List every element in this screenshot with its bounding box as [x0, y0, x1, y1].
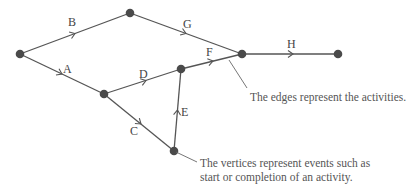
edges-callout-leader	[229, 60, 247, 88]
vertices-callout-text-line1: The vertices represent events such as	[200, 157, 371, 170]
edge-c	[104, 94, 174, 151]
vertex-4	[177, 65, 186, 74]
vertex-2	[126, 9, 135, 18]
activity-network-diagram: B A G D C E F H The edges represent the …	[0, 0, 417, 195]
vertex-3	[100, 90, 109, 99]
vertices-callout-text-line2: start or completion of an activity.	[200, 171, 353, 184]
vertices-callout-leader	[176, 152, 197, 162]
edge-label-e: E	[181, 105, 188, 119]
edge-label-f: F	[206, 45, 213, 59]
edge-label-b: B	[68, 15, 76, 29]
edge-label-a: A	[63, 62, 72, 76]
edge-label-h: H	[287, 37, 296, 51]
vertex-6	[238, 50, 247, 59]
vertex-5	[170, 147, 179, 156]
edge-label-d: D	[139, 67, 148, 81]
vertex-7	[334, 50, 343, 59]
edges-callout-text: The edges represent the activities.	[250, 91, 406, 104]
vertex-1	[16, 50, 25, 59]
edge-label-g: G	[183, 17, 192, 31]
edge-label-c: C	[130, 124, 138, 138]
